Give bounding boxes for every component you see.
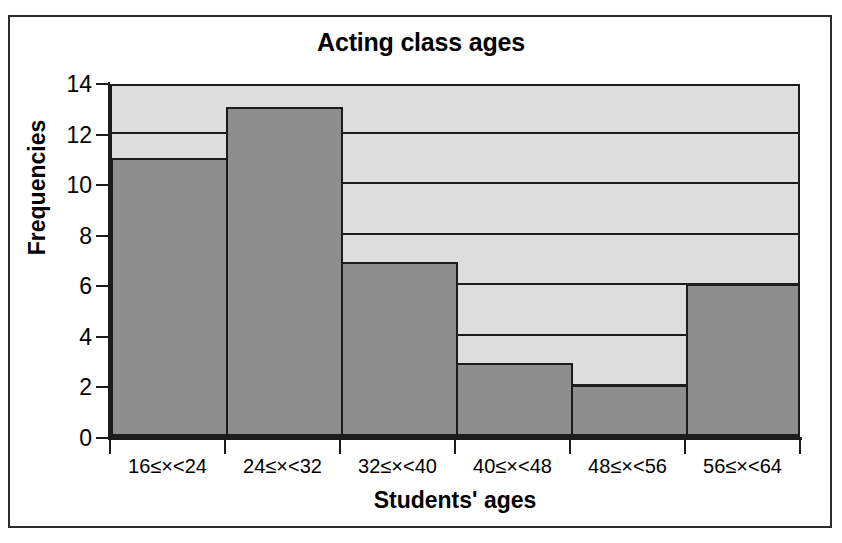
- y-axis-tick: [96, 184, 110, 186]
- x-axis-tick: [454, 438, 456, 454]
- y-axis-tick: [96, 437, 110, 439]
- y-axis-tick: [96, 83, 110, 85]
- y-axis-tick: [96, 386, 110, 388]
- plot-area: [110, 84, 800, 438]
- x-axis-tick: [684, 438, 686, 454]
- x-axis-tick-label: 24≤×<32: [225, 455, 340, 478]
- x-axis-title: Students' ages: [110, 487, 800, 514]
- x-axis-tick-label: 56≤×<64: [685, 455, 800, 478]
- x-axis-tick: [569, 438, 571, 454]
- x-axis-tick: [339, 438, 341, 454]
- x-axis-tick-label: 16≤×<24: [110, 455, 225, 478]
- histogram-bar: [571, 385, 688, 436]
- histogram-bar: [456, 363, 573, 436]
- x-axis-tick-label: 32≤×<40: [340, 455, 455, 478]
- y-axis-tick: [96, 134, 110, 136]
- bar-series: [112, 86, 798, 436]
- y-axis-tick-labels: 02468101214: [0, 0, 92, 543]
- x-axis-tick: [799, 438, 801, 454]
- x-axis-tick: [224, 438, 226, 454]
- y-axis-tick: [96, 235, 110, 237]
- y-axis-tick-label: 12: [2, 121, 92, 148]
- y-axis-tick: [96, 336, 110, 338]
- histogram-bar: [686, 284, 800, 436]
- y-axis-tick-label: 6: [2, 273, 92, 300]
- y-axis-tick-label: 14: [2, 71, 92, 98]
- chart-title: Acting class ages: [0, 28, 842, 57]
- histogram-bar: [111, 158, 228, 436]
- y-axis-tick-label: 2: [2, 374, 92, 401]
- x-axis-tick-label: 40≤×<48: [455, 455, 570, 478]
- y-axis-tick-label: 0: [2, 425, 92, 452]
- x-axis-tick-label: 48≤×<56: [570, 455, 685, 478]
- histogram-bar: [341, 262, 458, 436]
- y-axis-tick-label: 8: [2, 222, 92, 249]
- y-axis-tick-label: 4: [2, 323, 92, 350]
- histogram-figure: Acting class ages Frequencies 0246810121…: [0, 0, 842, 543]
- y-axis-tick: [96, 285, 110, 287]
- histogram-bar: [226, 107, 343, 436]
- y-axis-tick-label: 10: [2, 172, 92, 199]
- x-axis-tick: [109, 438, 111, 454]
